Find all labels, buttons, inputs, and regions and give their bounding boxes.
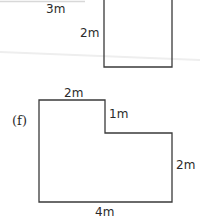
faint-divider-line [0, 52, 200, 60]
figure-f-tag: (f) [12, 114, 27, 128]
figure-f-step-label: 1m [109, 107, 129, 121]
figure-f-l-shape [39, 100, 172, 202]
figure-f-right-label: 2m [176, 158, 196, 172]
figure-f-top-label: 2m [64, 86, 84, 100]
figure-e-top-label: 3m [46, 2, 66, 16]
figure-e-side-label: 2m [80, 26, 100, 40]
diagram-canvas [0, 0, 200, 218]
figure-f-bottom-label: 4m [95, 205, 115, 218]
